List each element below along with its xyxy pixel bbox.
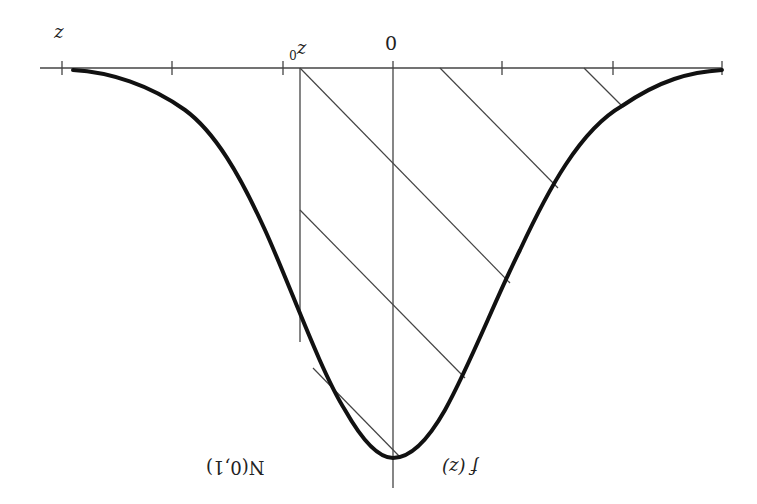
normal-distribution-figure: z z0 0 f (z) N(0,1) [0,0,757,504]
hatch-lines [300,68,622,457]
distribution-label: N(0,1) [206,457,264,478]
axis-variable-label: z [54,24,63,45]
threshold-label: z0 [289,40,306,61]
origin-label: 0 [385,32,397,54]
density-curve [73,70,722,458]
density-function-label: f (z) [442,457,478,478]
